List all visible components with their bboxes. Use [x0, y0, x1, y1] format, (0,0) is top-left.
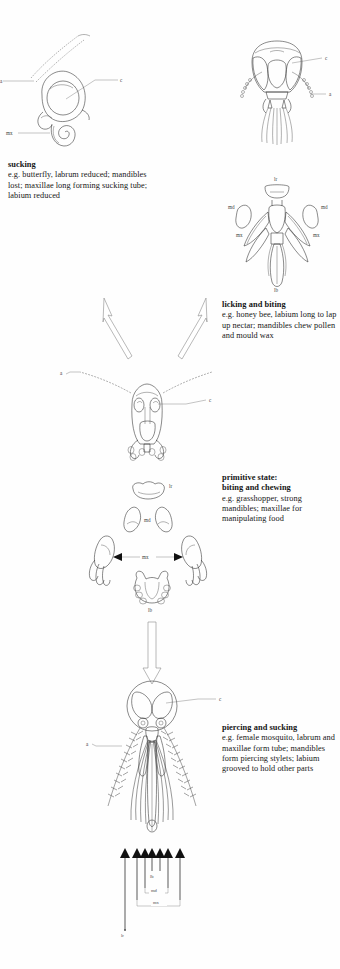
- caption-licking: licking and biting e.g. honey bee, labiu…: [222, 300, 338, 341]
- stylet-arrows: lb md mx lr: [120, 848, 185, 938]
- label-mandible-grasshopper: md: [144, 517, 151, 523]
- label-labrum-bee: lr: [274, 176, 277, 182]
- label-mandible-bee-right: md: [321, 204, 328, 210]
- label-labrum-grasshopper: lr: [169, 483, 172, 489]
- caption-sucking: sucking e.g. butterfly, labrum reduced; …: [8, 160, 160, 201]
- label-mandible-bee-left: md: [228, 204, 235, 210]
- arrow-up-right: [178, 298, 207, 359]
- panel-grasshopper-parts: lr md mx: [89, 482, 206, 613]
- caption-piercing-body: e.g. female mosquito, labrum and maxilla…: [222, 733, 340, 774]
- label-mandible-mosquito: md: [151, 888, 158, 893]
- label-maxilla-bee-left: mx: [236, 232, 243, 238]
- label-maxilla-mosquito: mx: [153, 900, 160, 905]
- label-antenna-grasshopper: a: [60, 370, 63, 376]
- caption-primitive-heading2: biting and chewing: [222, 483, 338, 493]
- label-eye-butterfly: c: [120, 77, 123, 83]
- caption-licking-heading: licking and biting: [222, 300, 338, 310]
- label-eye-mosquito: c: [219, 696, 222, 702]
- panel-grasshopper-head: a c: [60, 370, 212, 461]
- label-antenna-bee: a: [329, 91, 332, 97]
- label-maxilla-bee-right: mx: [313, 232, 320, 238]
- caption-piercing: piercing and sucking e.g. female mosquit…: [222, 723, 340, 774]
- label-eye-grasshopper: c: [209, 397, 212, 403]
- label-maxilla-grasshopper: mx: [142, 554, 149, 560]
- caption-sucking-heading: sucking: [8, 160, 160, 170]
- panel-bee-head: c a: [241, 41, 333, 145]
- caption-primitive: primitive state: biting and chewing e.g.…: [222, 473, 338, 524]
- label-labium-bee: lb: [274, 287, 278, 293]
- label-antenna-butterfly: a: [0, 78, 3, 84]
- label-eye-bee: c: [325, 55, 328, 61]
- caption-piercing-heading: piercing and sucking: [222, 723, 340, 733]
- label-antenna-mosquito: a: [86, 741, 89, 747]
- caption-primitive-heading: primitive state:: [222, 473, 338, 483]
- label-labium-grasshopper: lb: [148, 607, 152, 613]
- arrow-down: [143, 622, 161, 684]
- panel-butterfly: a c mx: [0, 35, 123, 147]
- panel-mosquito: c a: [86, 681, 222, 832]
- caption-primitive-body: e.g. grasshopper, strong mandibles; maxi…: [222, 494, 338, 525]
- panel-bee-parts: lr md md mx mx: [228, 176, 328, 293]
- figure-page: a c mx: [0, 0, 340, 969]
- caption-licking-body: e.g. honey bee, labium long to lap up ne…: [222, 310, 338, 341]
- arrow-up-left: [103, 298, 132, 359]
- label-maxilla-butterfly: mx: [6, 130, 13, 136]
- label-labrum-mosquito: lr: [121, 933, 124, 938]
- caption-sucking-body: e.g. butterfly, labrum reduced; mandible…: [8, 170, 160, 201]
